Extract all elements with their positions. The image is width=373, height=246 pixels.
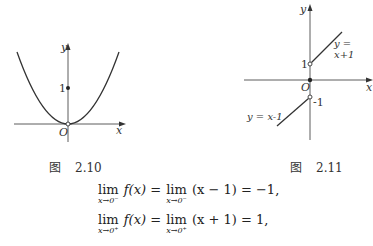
figure-2-10 xyxy=(14,43,126,142)
fig11-origin-label: O xyxy=(301,81,310,94)
lim-subscript: x→0⁺ xyxy=(98,226,119,235)
fig11-caption: 图2.11 xyxy=(290,158,343,175)
fig10-caption: 图2.10 xyxy=(49,158,102,175)
lim-operator: lim xyxy=(98,183,119,196)
filled-point-1 xyxy=(66,86,70,90)
fig10-tick-1: 1 xyxy=(59,82,66,95)
open-point-plus1 xyxy=(308,62,312,66)
fig10-x-label: x xyxy=(116,124,122,137)
fig11-lower-line-label: y = x-1 xyxy=(247,111,283,122)
lim-operator: lim xyxy=(166,183,187,196)
equation-right-limit: limx→0⁺ f(x) = limx→0⁺ (x + 1) = 1, xyxy=(98,213,268,235)
lim-subscript: x→0⁺ xyxy=(166,226,187,235)
fig11-upper-line-label: y = x+1 xyxy=(334,38,373,60)
rhs: (x − 1) = −1, xyxy=(192,183,279,196)
rhs: (x + 1) = 1, xyxy=(192,213,268,226)
fig11-tick-minus1: -1 xyxy=(313,96,324,109)
fig11-x-label: x xyxy=(366,81,372,94)
caption-number: 2.11 xyxy=(316,161,343,175)
fig11-y-label: y xyxy=(300,3,306,16)
lhs: f(x) = xyxy=(124,183,161,196)
caption-prefix: 图 xyxy=(290,161,302,175)
lim-subscript: x→0⁻ xyxy=(166,196,187,205)
lim-operator: lim xyxy=(98,213,119,226)
open-point-minus1 xyxy=(308,95,312,99)
fig10-origin-label: O xyxy=(59,126,68,139)
caption-number: 2.10 xyxy=(75,161,102,175)
equation-left-limit: limx→0⁻ f(x) = limx→0⁻ (x − 1) = −1, xyxy=(98,183,279,205)
y-axis-arrow-icon xyxy=(308,4,313,11)
caption-prefix: 图 xyxy=(49,161,61,175)
fig10-y-label: y xyxy=(61,41,67,54)
figures-canvas xyxy=(0,0,373,246)
lim-subscript: x→0⁻ xyxy=(98,196,119,205)
fig11-tick-1: 1 xyxy=(301,58,308,71)
lim-operator: lim xyxy=(166,213,187,226)
lhs: f(x) = xyxy=(124,213,161,226)
